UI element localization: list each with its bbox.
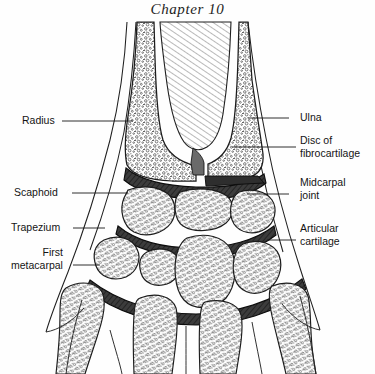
scaphoid-bone	[122, 187, 175, 235]
label-articular-cartilage-line-1: cartilage	[300, 235, 340, 248]
figure-page: Chapter 10	[0, 0, 375, 374]
label-trapezium: Trapezium	[11, 221, 60, 234]
label-disc-of-fibrocartilage: Disc offibrocartilage	[300, 134, 360, 159]
label-midcarpal-joint-line-1: joint	[300, 189, 346, 202]
trapezoid-bone	[140, 249, 180, 286]
label-ulna-line-0: Ulna	[300, 111, 322, 124]
distal-carpal-row	[94, 235, 280, 307]
capitate-bone	[175, 235, 235, 307]
label-scaphoid-line-0: Scaphoid	[14, 186, 58, 199]
first-metacarpal-bone	[56, 283, 104, 374]
third-metacarpal-bone	[199, 301, 242, 374]
label-radius: Radius	[22, 114, 55, 127]
label-first-metacarpal-line-0: First	[11, 246, 63, 259]
label-ulna: Ulna	[300, 111, 322, 124]
label-disc-of-fibrocartilage-line-1: fibrocartilage	[300, 147, 360, 160]
trapezium-bone	[94, 237, 139, 279]
second-metacarpal-bone	[133, 295, 177, 374]
label-midcarpal-joint: Midcarpaljoint	[300, 176, 346, 201]
label-trapezium-line-0: Trapezium	[11, 221, 60, 234]
lunate-bone	[175, 189, 233, 231]
triquetral-bone	[231, 190, 276, 233]
label-articular-cartilage: Articularcartilage	[300, 222, 340, 247]
label-radius-line-0: Radius	[22, 114, 55, 127]
label-scaphoid: Scaphoid	[14, 186, 58, 199]
label-first-metacarpal-line-1: metacarpal	[11, 259, 63, 272]
label-midcarpal-joint-line-0: Midcarpal	[300, 176, 346, 189]
label-first-metacarpal: Firstmetacarpal	[11, 246, 63, 271]
label-articular-cartilage-line-0: Articular	[300, 222, 340, 235]
label-disc-of-fibrocartilage-line-0: Disc of	[300, 134, 360, 147]
